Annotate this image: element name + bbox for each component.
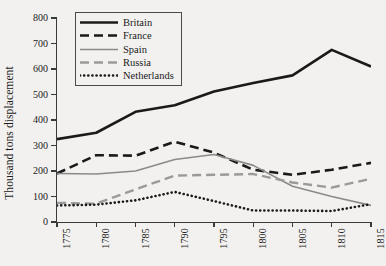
x-tick xyxy=(292,222,293,227)
y-tick-label: 200 xyxy=(0,165,48,176)
y-tick-label: 0 xyxy=(0,216,48,227)
legend-label: Britain xyxy=(123,17,152,28)
x-tick-label: 1780 xyxy=(100,228,111,249)
legend-item-netherlands[interactable]: Netherlands xyxy=(80,69,177,82)
legend-item-britain[interactable]: Britain xyxy=(80,16,177,29)
y-tick-label: 300 xyxy=(0,140,48,151)
x-tick-label: 1800 xyxy=(257,228,268,249)
x-tick xyxy=(96,222,97,227)
legend-label: Russia xyxy=(123,57,151,68)
series-line-spain xyxy=(57,154,371,205)
x-tick xyxy=(56,222,57,227)
x-tick-label: 1795 xyxy=(218,228,229,249)
y-tick-label: 700 xyxy=(0,38,48,49)
x-tick xyxy=(331,222,332,227)
legend: BritainFranceSpainRussiaNetherlands xyxy=(75,12,182,86)
x-tick-label: 1815 xyxy=(375,228,386,249)
y-axis-title-label: Thousand tons displacement xyxy=(3,66,15,200)
y-tick-label: 400 xyxy=(0,114,48,125)
x-tick-label: 1790 xyxy=(179,228,190,249)
x-tick xyxy=(174,222,175,227)
legend-label: France xyxy=(123,30,152,41)
legend-swatch-icon xyxy=(80,17,118,28)
legend-label: Netherlands xyxy=(123,70,174,81)
y-tick-label: 600 xyxy=(0,63,48,74)
legend-swatch-icon xyxy=(80,57,118,68)
legend-swatch-icon xyxy=(80,70,118,81)
y-tick-label: 100 xyxy=(0,191,48,202)
x-tick xyxy=(213,222,214,227)
series-line-russia xyxy=(57,174,371,204)
legend-swatch-icon xyxy=(80,30,118,41)
series-line-france xyxy=(57,142,371,175)
legend-item-france[interactable]: France xyxy=(80,29,177,42)
x-tick xyxy=(135,222,136,227)
legend-item-spain[interactable]: Spain xyxy=(80,43,177,56)
x-tick-label: 1810 xyxy=(336,228,347,249)
x-tick-label: 1805 xyxy=(297,228,308,249)
y-tick-label: 800 xyxy=(0,12,48,23)
x-tick-label: 1785 xyxy=(140,228,151,249)
x-tick xyxy=(253,222,254,227)
legend-swatch-icon xyxy=(80,44,118,55)
legend-label: Spain xyxy=(123,44,147,55)
legend-item-russia[interactable]: Russia xyxy=(80,56,177,69)
y-tick-label: 500 xyxy=(0,89,48,100)
x-tick xyxy=(370,222,371,227)
x-tick-label: 1775 xyxy=(61,228,72,249)
